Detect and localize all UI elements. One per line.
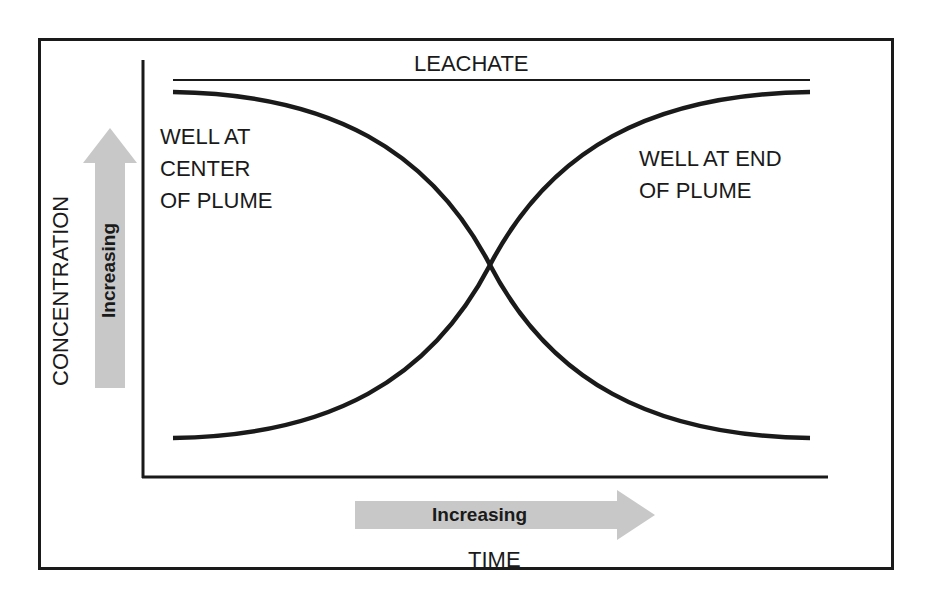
x-axis-label: TIME [468,546,521,573]
center-plume-label-3: OF PLUME [160,187,272,214]
x-arrow-label: Increasing [432,504,527,526]
end-plume-label-2: OF PLUME [639,177,751,204]
y-arrow-label: Increasing [98,223,120,318]
leachate-label: LEACHATE [414,50,529,77]
y-axis-label: CONCENTRATION [48,196,74,386]
center-plume-label-2: CENTER [160,155,250,182]
end-plume-curve [173,92,810,438]
end-plume-label-1: WELL AT END [639,145,782,172]
center-plume-label-1: WELL AT [160,123,250,150]
